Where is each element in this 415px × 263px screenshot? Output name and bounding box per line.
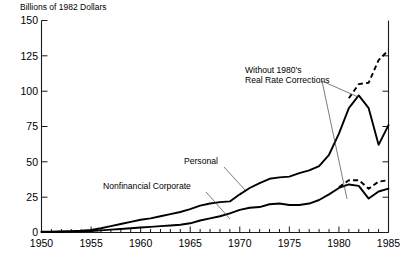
x-axis: 1950 1955 1960 1965 1970 1975 1980 1985 bbox=[30, 21, 401, 250]
leader-line-nonfinancial-corporate bbox=[206, 192, 230, 219]
x-tick-label-1955: 1955 bbox=[79, 237, 103, 249]
y-axis-title: Billions of 1982 Dollars bbox=[20, 2, 106, 12]
x-tick-label-1950: 1950 bbox=[30, 237, 54, 249]
annotation-line-1: Without 1980's bbox=[245, 65, 302, 75]
x-tick-label-1965: 1965 bbox=[179, 237, 203, 249]
x-tick-label-1970: 1970 bbox=[228, 237, 252, 249]
line-chart: Billions of 1982 Dollars 150 125 100 75 … bbox=[0, 0, 415, 263]
chart-container: Billions of 1982 Dollars 150 125 100 75 … bbox=[0, 0, 415, 263]
annotation-personal: Personal bbox=[184, 156, 245, 190]
x-tick-label-1985: 1985 bbox=[377, 237, 401, 249]
y-tick-label-125: 125 bbox=[20, 50, 38, 62]
x-tick-label-1980: 1980 bbox=[327, 237, 351, 249]
y-ticks bbox=[42, 21, 48, 233]
y-axis: 150 125 100 75 50 25 0 bbox=[20, 14, 47, 238]
leader-line-upper-dashed bbox=[322, 81, 358, 97]
annotation-without-corrections: Without 1980's Real Rate Corrections bbox=[245, 65, 358, 199]
y-tick-label-150: 150 bbox=[20, 14, 38, 26]
y-tick-label-100: 100 bbox=[20, 85, 38, 97]
series-layer bbox=[42, 50, 389, 232]
annotation-nonfinancial-corporate: Nonfinancial Corporate bbox=[103, 181, 230, 219]
y-tick-label-25: 25 bbox=[26, 191, 38, 203]
leader-line-personal bbox=[224, 167, 245, 190]
series-label-personal: Personal bbox=[184, 156, 218, 166]
y-tick-label-50: 50 bbox=[26, 156, 38, 168]
x-tick-label-1975: 1975 bbox=[278, 237, 302, 249]
x-tick-label-1960: 1960 bbox=[129, 237, 153, 249]
y-tick-label-75: 75 bbox=[26, 120, 38, 132]
leader-line-lower-dashed bbox=[322, 81, 347, 199]
series-line-nonfinancial-corporate bbox=[42, 184, 389, 232]
annotation-line-2: Real Rate Corrections bbox=[245, 75, 330, 85]
series-label-nonfinancial-corporate: Nonfinancial Corporate bbox=[103, 181, 191, 191]
